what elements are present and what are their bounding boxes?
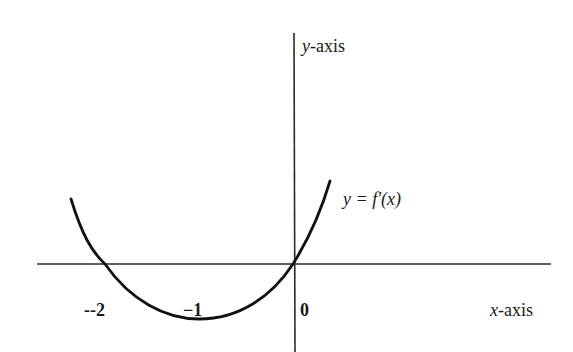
tick-label-neg1: −1 (183, 300, 202, 320)
tick-label-neg2: --2 (84, 300, 105, 320)
derivative-graph: y-axis y = f′(x) x-axis --2 −1 0 (0, 0, 573, 352)
curve-label: y = f′(x) (341, 189, 401, 210)
tick-label-0: 0 (300, 300, 309, 320)
y-axis-line (294, 33, 295, 352)
x-axis-label: x-axis (489, 300, 533, 320)
curve-f-prime (71, 181, 330, 319)
y-axis-label: y-axis (300, 36, 345, 56)
